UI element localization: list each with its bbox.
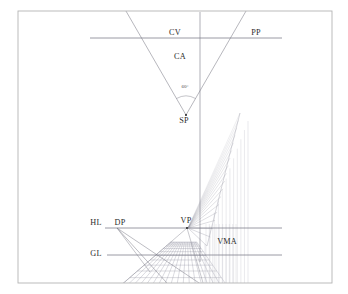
canvas-background [0,0,348,294]
label-sp: SP [179,116,189,125]
perspective-diagram: 60° CVPPCASPHLDPVPGLVMA [0,0,348,294]
diagram-canvas: 60° CVPPCASPHLDPVPGLVMA [0,0,348,294]
vanishing-point-marker [186,227,188,229]
label-vma: VMA [217,237,237,246]
label-vp: VP [181,216,192,225]
label-pp: PP [251,28,261,37]
label-cv: CV [169,28,181,37]
cone-angle-label: 60° [182,84,189,89]
label-ca: CA [174,52,186,61]
label-dp: DP [115,218,126,227]
label-hl: HL [90,218,101,227]
label-gl: GL [90,249,101,258]
